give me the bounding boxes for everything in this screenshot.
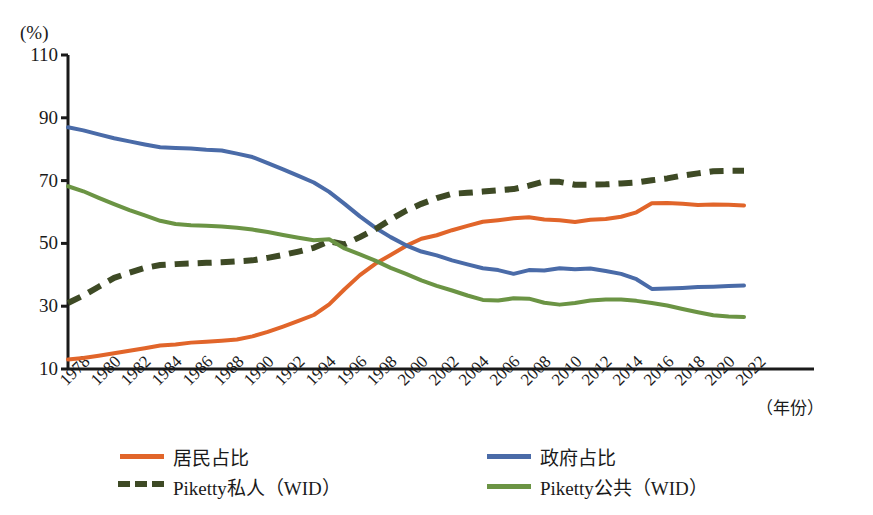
legend-label: Piketty私人（WID） (173, 473, 341, 500)
legend-swatch-icon (118, 481, 164, 493)
legend-label: 政府占比 (540, 443, 616, 470)
legend-item[interactable]: 政府占比 (487, 443, 616, 470)
plot-area (0, 0, 873, 515)
legend-item[interactable]: Piketty公共（WID） (487, 473, 708, 500)
legend-item[interactable]: 居民占比 (120, 443, 249, 470)
legend-swatch-icon (487, 454, 531, 459)
legend-label: 居民占比 (173, 443, 249, 470)
legend-swatch-icon (487, 484, 531, 489)
series-line-3 (68, 186, 744, 317)
legend-label: Piketty公共（WID） (540, 473, 708, 500)
legend-item[interactable]: Piketty私人（WID） (118, 473, 341, 500)
chart-container: (%) 1109070503010 1978198019821984198619… (0, 0, 873, 515)
legend-swatch-icon (120, 454, 164, 459)
